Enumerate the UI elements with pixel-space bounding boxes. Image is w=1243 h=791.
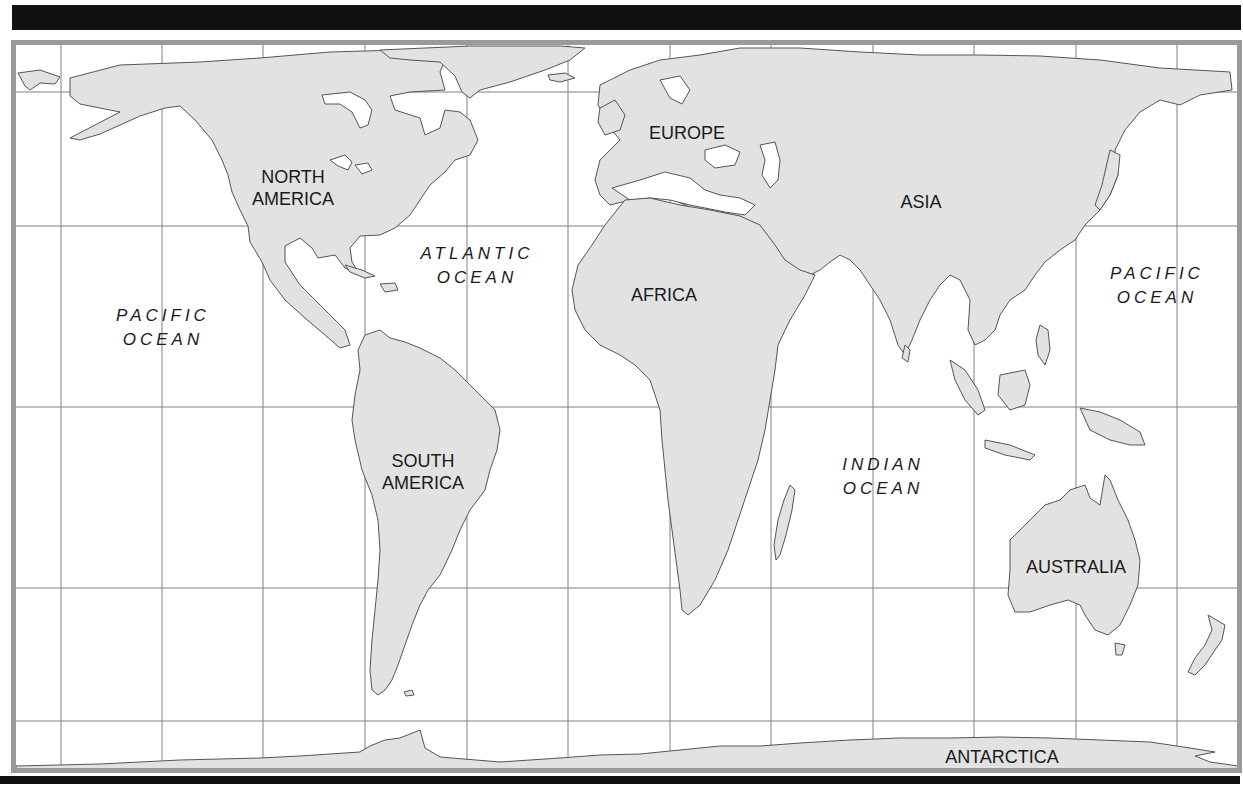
bottom-black-bar <box>0 776 1240 784</box>
world-map: NORTHAMERICASOUTHAMERICAEUROPEAFRICAASIA… <box>11 40 1242 773</box>
label-line: AMERICA <box>252 188 334 210</box>
label-line: PACIFIC <box>1110 262 1204 286</box>
label-line: EUROPE <box>649 122 725 144</box>
land-philippines <box>1036 325 1050 365</box>
label-line: NORTH <box>252 166 334 188</box>
label-pacific-east: PACIFICOCEAN <box>1110 262 1204 310</box>
top-black-bar <box>12 5 1241 30</box>
land-falklands <box>404 690 414 696</box>
label-australia: AUSTRALIA <box>1026 556 1126 578</box>
land-madagascar <box>774 485 795 560</box>
land-borneo <box>998 370 1030 410</box>
label-line: AMERICA <box>382 472 464 494</box>
label-line: OCEAN <box>421 266 534 290</box>
land-north-america <box>18 50 478 348</box>
label-line: OCEAN <box>842 477 924 501</box>
land-java <box>985 440 1035 460</box>
land-caribbean <box>345 265 398 292</box>
label-line: AFRICA <box>631 284 697 306</box>
label-indian: INDIANOCEAN <box>842 453 924 501</box>
land-iceland <box>548 73 575 82</box>
label-north-america: NORTHAMERICA <box>252 166 334 210</box>
label-asia: ASIA <box>900 191 941 213</box>
land-new-zealand <box>1188 615 1225 675</box>
land-australia <box>1008 475 1140 635</box>
label-antarctica: ANTARCTICA <box>945 746 1059 768</box>
land-south-america <box>352 330 500 695</box>
label-line: OCEAN <box>1110 286 1204 310</box>
label-line: SOUTH <box>382 450 464 472</box>
map-canvas <box>11 40 1242 773</box>
label-line: ASIA <box>900 191 941 213</box>
land-new-guinea <box>1080 408 1145 445</box>
label-line: AUSTRALIA <box>1026 556 1126 578</box>
label-line: ATLANTIC <box>421 242 534 266</box>
label-pacific-west: PACIFICOCEAN <box>116 304 210 352</box>
label-line: OCEAN <box>116 328 210 352</box>
land-tasmania <box>1115 643 1125 655</box>
label-south-america: SOUTHAMERICA <box>382 450 464 494</box>
label-line: INDIAN <box>842 453 924 477</box>
label-africa: AFRICA <box>631 284 697 306</box>
label-line: ANTARCTICA <box>945 746 1059 768</box>
label-line: PACIFIC <box>116 304 210 328</box>
label-atlantic: ATLANTICOCEAN <box>421 242 534 290</box>
label-europe: EUROPE <box>649 122 725 144</box>
